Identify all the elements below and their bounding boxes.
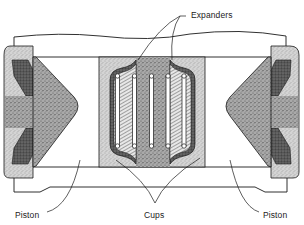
expanders-label: Expanders [191,10,233,20]
cups-label: Cups [144,210,164,220]
piston-left-leader [47,160,80,212]
left-piston [33,57,78,167]
piston-right-label: Piston [263,210,287,220]
left-end-cap [4,46,33,178]
expanders-leader-2 [172,16,180,60]
piston-left-label: Piston [15,210,39,220]
right-piston [226,57,271,167]
piston-right-leader [230,160,259,212]
right-end-cap [271,46,299,178]
piston-cups-diagram [0,0,304,225]
